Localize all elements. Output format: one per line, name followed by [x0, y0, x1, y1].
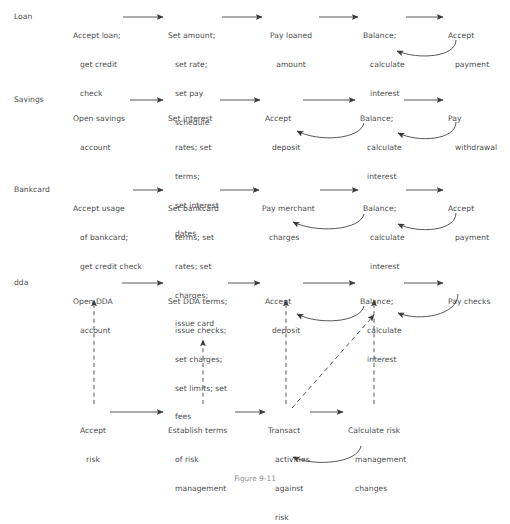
node-line: Accept — [448, 31, 489, 41]
node-line: risk — [268, 513, 310, 523]
node-line: calculate — [363, 233, 405, 243]
node-bankcard-balance: Balance; calculate interest — [363, 185, 405, 291]
node-risk-accept-risk: Accept risk — [73, 407, 113, 484]
node-line: issue checks; — [168, 326, 227, 336]
dashed-dependency-connectors — [94, 300, 374, 404]
node-line: calculate — [360, 326, 402, 336]
node-line: terms; — [168, 172, 219, 182]
node-risk-transact: Transact activities against risk — [268, 407, 310, 524]
node-line: changes — [348, 484, 406, 494]
node-line: Pay — [448, 114, 497, 124]
node-savings-open-account: Open savings account — [73, 95, 125, 172]
node-risk-establish-terms: Establish terms of risk management — [168, 407, 227, 513]
node-line: Open DDA — [73, 297, 113, 307]
node-line: terms; set — [168, 233, 219, 243]
node-line: Accept loan; — [73, 31, 121, 41]
node-line: calculate — [360, 143, 402, 153]
node-line: Balance; — [360, 114, 402, 124]
row-label-savings: Savings — [14, 95, 44, 105]
node-savings-accept-deposit: Accept deposit — [265, 95, 300, 172]
node-line: Transact — [268, 426, 310, 436]
node-line: of bankcard; — [73, 233, 142, 243]
node-line: Balance; — [363, 31, 405, 41]
node-line: deposit — [265, 143, 300, 153]
node-line: payment — [448, 60, 489, 70]
node-line: interest — [363, 262, 405, 272]
node-line: withdrawal — [448, 143, 497, 153]
node-savings-pay-withdrawal: Pay withdrawal — [448, 95, 497, 172]
node-bankcard-accept-payment: Accept payment — [448, 185, 489, 262]
node-dda-open-account: Open DDA account — [73, 278, 113, 355]
node-line: management — [348, 455, 406, 465]
node-line: interest — [360, 355, 402, 365]
node-line: Accept — [448, 204, 489, 214]
node-line: management — [168, 484, 227, 494]
node-line: activities — [268, 455, 310, 465]
node-line: set charges; — [168, 355, 227, 365]
node-line: Set bankcard — [168, 204, 219, 214]
node-line: Accept usage — [73, 204, 142, 214]
node-line: Set amount; — [168, 31, 215, 41]
node-loan-pay-loaned: Pay loaned amount — [262, 12, 320, 89]
node-line: Pay loaned — [262, 31, 320, 41]
row-label-dda: dda — [14, 278, 28, 288]
node-dda-accept-deposit: Accept deposit — [265, 278, 300, 355]
node-line: interest — [360, 172, 402, 182]
node-line: calculate — [363, 60, 405, 70]
node-line: payment — [448, 233, 489, 243]
node-line: charges — [262, 233, 315, 243]
node-line: Open savings — [73, 114, 125, 124]
node-line: account — [73, 326, 113, 336]
node-line: risk — [73, 455, 113, 465]
node-line: rates; set — [168, 143, 219, 153]
node-line: rates; set — [168, 262, 219, 272]
node-line: Set DDA terms; — [168, 297, 227, 307]
node-line: Establish terms — [168, 426, 227, 436]
node-line: against — [268, 484, 310, 494]
node-line: get credit check — [73, 262, 142, 272]
node-line: Balance; — [360, 297, 402, 307]
node-dda-pay-checks: Pay checks — [448, 278, 491, 326]
node-line: account — [73, 143, 125, 153]
feedback-savings-balance-to-acceptdeposit — [297, 123, 364, 138]
node-loan-accept-payment: Accept payment — [448, 12, 489, 89]
node-line: Set interest — [168, 114, 219, 124]
node-line: get credit — [73, 60, 121, 70]
node-line: set rate; — [168, 60, 215, 70]
figure-caption: Figure 9-11 — [0, 474, 510, 483]
node-line: Accept — [265, 114, 300, 124]
node-dda-balance: Balance; calculate interest — [360, 278, 402, 384]
node-risk-calculate: Calculate risk management changes — [348, 407, 406, 513]
row-label-loan: Loan — [14, 12, 32, 22]
feedback-dda-balance-to-acceptdeposit — [297, 306, 364, 321]
node-line: Balance; — [363, 204, 405, 214]
node-line: Pay merchant — [262, 204, 315, 214]
row-label-bankcard: Bankcard — [14, 185, 50, 195]
node-line: Calculate risk — [348, 426, 406, 436]
node-bankcard-accept-usage: Accept usage of bankcard; get credit che… — [73, 185, 142, 291]
node-line: set limits; set — [168, 384, 227, 394]
node-line: Accept — [265, 297, 300, 307]
risk-row-connectors — [110, 412, 361, 462]
node-bankcard-pay-merchant: Pay merchant charges — [262, 185, 315, 262]
node-line: Accept — [73, 426, 113, 436]
node-line: amount — [262, 60, 320, 70]
node-line: deposit — [265, 326, 300, 336]
node-line: of risk — [168, 455, 227, 465]
node-line: Pay checks — [448, 297, 491, 307]
